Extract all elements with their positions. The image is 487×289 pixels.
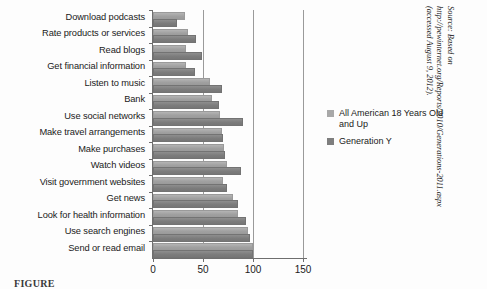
x-tick-label-0: 0 (150, 264, 156, 275)
bar-1 (153, 68, 195, 76)
category-axis-labels: Download podcastsRate products or servic… (0, 10, 149, 258)
bar-group (153, 175, 307, 192)
bar-1 (153, 52, 202, 60)
category-label: Read blogs (0, 45, 145, 55)
x-axis-line (152, 258, 307, 259)
bar-group (153, 109, 307, 126)
bar-group (153, 142, 307, 159)
category-label: Bank (0, 94, 145, 104)
plot-area: 050100150 (152, 10, 307, 258)
category-label: Watch videos (0, 160, 145, 170)
bar-group (153, 126, 307, 143)
bar-group (153, 192, 307, 209)
x-tick-50 (203, 258, 204, 262)
bar-group (153, 225, 307, 242)
legend-swatch-icon (327, 110, 334, 117)
category-label: Use search engines (0, 226, 145, 236)
category-label: Send or read email (0, 243, 145, 253)
bar-1 (153, 217, 246, 225)
category-label: Visit government websites (0, 177, 145, 187)
bar-group (153, 93, 307, 110)
category-label: Listen to music (0, 78, 145, 88)
bar-1 (153, 151, 225, 159)
x-tick-150 (303, 258, 304, 262)
legend-swatch-icon (327, 138, 334, 145)
bar-1 (153, 184, 227, 192)
legend-label: Generation Y (339, 136, 392, 147)
bar-group (153, 208, 307, 225)
figure-caption: FIGURE (14, 278, 55, 289)
chart-figure: Download podcastsRate products or servic… (0, 0, 487, 289)
category-label: Look for health information (0, 210, 145, 220)
bar-group (153, 241, 307, 258)
category-label: Get news (0, 193, 145, 203)
bar-group (153, 159, 307, 176)
x-tick-100 (253, 258, 254, 262)
category-label: Get financial information (0, 61, 145, 71)
bar-1 (153, 167, 241, 175)
category-label: Use social networks (0, 111, 145, 121)
bar-1 (153, 101, 219, 109)
bar-1 (153, 35, 196, 43)
bar-1 (153, 234, 250, 242)
bar-1 (153, 85, 222, 93)
x-tick-label-50: 50 (197, 264, 208, 275)
bar-group (153, 76, 307, 93)
bar-1 (153, 118, 243, 126)
x-tick-label-100: 100 (245, 264, 262, 275)
category-label: Rate products or services (0, 28, 145, 38)
bar-group (153, 60, 307, 77)
category-label: Download podcasts (0, 12, 145, 22)
bar-1 (153, 19, 177, 27)
x-tick-0 (153, 258, 154, 262)
bar-group (153, 43, 307, 60)
bar-1 (153, 200, 238, 208)
category-label: Make travel arrangements (0, 127, 145, 137)
source-note: Source: Based on http://pewinternet.org/… (424, 6, 456, 226)
x-tick-label-150: 150 (295, 264, 312, 275)
bar-1 (153, 250, 253, 258)
bar-group (153, 27, 307, 44)
category-label: Make purchases (0, 144, 145, 154)
bar-group (153, 10, 307, 27)
bar-1 (153, 134, 223, 142)
